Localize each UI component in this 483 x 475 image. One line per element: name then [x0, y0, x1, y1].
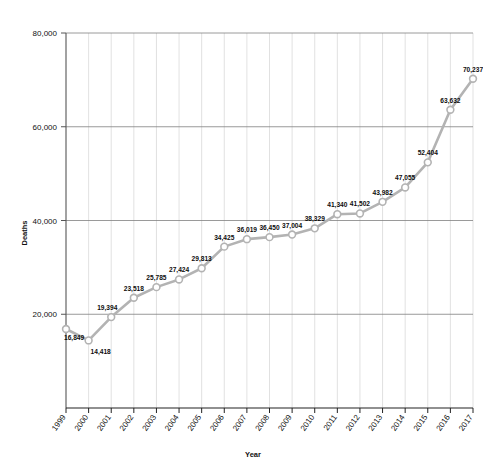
- x-tick-label-2010: 2010: [299, 413, 317, 433]
- data-point-2017: [470, 75, 477, 82]
- x-tick-label-2015: 2015: [412, 413, 430, 433]
- data-point-2006: [221, 243, 228, 250]
- y-tick-label-20000: 20,000: [33, 310, 58, 319]
- data-point-2010: [311, 225, 318, 232]
- data-point-2007: [243, 236, 250, 243]
- data-label-2015: 52,404: [418, 149, 439, 157]
- data-label-2003: 25,785: [146, 274, 167, 282]
- x-tick-label-2007: 2007: [231, 413, 249, 433]
- x-tick-label-2009: 2009: [276, 413, 294, 433]
- y-axis-title: Deaths: [20, 220, 29, 245]
- data-label-2010: 38,329: [305, 215, 326, 223]
- x-axis-tick-labels: 1999200020012002200320042005200620072008…: [50, 413, 475, 433]
- data-label-2016: 63,632: [440, 97, 461, 105]
- x-tick-label-2003: 2003: [140, 413, 158, 433]
- x-tick-label-2012: 2012: [344, 413, 362, 433]
- data-point-2003: [153, 284, 160, 291]
- data-point-2008: [266, 234, 273, 241]
- y-tick-label-40000: 40,000: [33, 217, 58, 226]
- data-point-2011: [334, 211, 341, 218]
- x-tick-label-2011: 2011: [322, 413, 340, 433]
- y-tick-label-60000: 60,000: [33, 123, 58, 132]
- data-label-2004: 27,424: [169, 266, 190, 274]
- x-tick-label-2006: 2006: [208, 413, 226, 433]
- x-axis-title: Year: [245, 450, 261, 459]
- x-tick-label-2014: 2014: [389, 413, 407, 433]
- x-tick-label-2004: 2004: [163, 413, 181, 433]
- y-axis-ticks: [61, 33, 66, 314]
- x-tick-label-2005: 2005: [186, 413, 204, 433]
- x-tick-label-2016: 2016: [434, 413, 452, 433]
- data-point-2004: [176, 276, 183, 283]
- data-point-2014: [402, 184, 409, 191]
- data-point-2015: [424, 159, 431, 166]
- data-point-labels: 16,84914,41819,39423,51825,78527,42429,8…: [64, 66, 483, 357]
- x-tick-label-2013: 2013: [367, 413, 385, 433]
- data-point-2005: [198, 265, 205, 272]
- data-label-2009: 37,004: [282, 222, 303, 230]
- data-label-2001: 19,394: [97, 304, 118, 312]
- data-label-2006: 34,425: [214, 234, 235, 242]
- data-point-2009: [289, 231, 296, 238]
- data-label-2014: 47,055: [395, 174, 416, 182]
- x-tick-label-2002: 2002: [118, 413, 136, 433]
- data-label-2002: 23,518: [124, 285, 145, 293]
- data-point-2000: [85, 337, 92, 344]
- data-label-2005: 29,813: [192, 255, 213, 263]
- x-axis-ticks: [66, 408, 473, 413]
- y-axis-tick-labels: 20,00040,00060,00080,000: [33, 29, 58, 319]
- data-point-2016: [447, 106, 454, 113]
- data-label-2008: 36,450: [259, 224, 280, 232]
- data-label-2011: 41,340: [327, 201, 348, 209]
- line-chart: 16,84914,41819,39423,51825,78527,42429,8…: [0, 0, 483, 475]
- y-tick-label-80000: 80,000: [33, 29, 58, 38]
- x-tick-label-2000: 2000: [73, 413, 91, 433]
- x-tick-label-2001: 2001: [95, 413, 113, 433]
- data-label-2017: 70,237: [463, 66, 483, 74]
- data-label-2012: 41,502: [350, 200, 371, 208]
- x-tick-label-2008: 2008: [254, 413, 272, 433]
- chart-canvas: 16,84914,41819,39423,51825,78527,42429,8…: [0, 0, 483, 475]
- data-point-2001: [108, 314, 115, 321]
- data-point-2002: [130, 294, 137, 301]
- data-label-2013: 43,982: [372, 189, 393, 197]
- data-label-2007: 36,019: [237, 226, 258, 234]
- data-point-2012: [357, 210, 364, 217]
- x-tick-label-1999: 1999: [50, 413, 68, 433]
- data-label-1999: 16,849: [64, 334, 85, 342]
- data-label-2000: 14,418: [91, 348, 112, 356]
- data-point-1999: [63, 326, 70, 333]
- data-point-2013: [379, 198, 386, 205]
- x-tick-label-2017: 2017: [457, 413, 475, 433]
